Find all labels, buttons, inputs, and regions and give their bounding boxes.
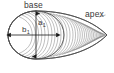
major-axis-subscript: 1 bbox=[43, 22, 46, 28]
cone-morphology-figure: base apex b1 a1 bbox=[0, 0, 114, 73]
minor-axis-subscript: 1 bbox=[27, 29, 30, 35]
minor-axis-letter: b bbox=[22, 25, 26, 34]
major-axis-label: a1 bbox=[38, 19, 46, 27]
major-axis-letter: a bbox=[38, 18, 42, 27]
base-label: base bbox=[24, 1, 43, 10]
minor-axis-label: b1 bbox=[22, 26, 30, 34]
apex-label: apex bbox=[85, 10, 104, 19]
